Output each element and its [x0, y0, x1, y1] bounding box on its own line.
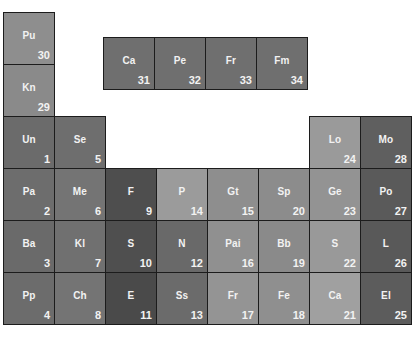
- tile-fe-18: Fe18: [258, 272, 310, 325]
- tile-symbol: E: [106, 290, 156, 301]
- tile-fr-17: Fr17: [207, 272, 259, 325]
- tile-number: 17: [242, 309, 254, 321]
- tile-symbol: S: [106, 238, 156, 249]
- tile-se-5: Se5: [54, 116, 106, 169]
- tile-symbol: Pe: [155, 55, 205, 66]
- tile-number: 2: [44, 205, 50, 217]
- tile-s-22: S22: [309, 220, 361, 273]
- tile-symbol: Ca: [104, 55, 154, 66]
- tile-pp-4: Pp4: [3, 272, 55, 325]
- tile-symbol: Sp: [259, 186, 309, 197]
- tile-sp-20: Sp20: [258, 168, 310, 221]
- tile-number: 28: [395, 153, 407, 165]
- tile-ge-23: Ge23: [309, 168, 361, 221]
- tile-symbol: N: [157, 238, 207, 249]
- tile-ca-31: Ca31: [103, 37, 155, 90]
- tile-number: 16: [242, 257, 254, 269]
- tile-pe-32: Pe32: [154, 37, 206, 90]
- tile-number: 31: [138, 74, 150, 86]
- tile-number: 12: [191, 257, 203, 269]
- tile-symbol: L: [361, 238, 411, 249]
- tile-number: 29: [38, 101, 50, 113]
- tile-symbol: El: [361, 290, 411, 301]
- tile-f-9: F9: [105, 168, 157, 221]
- tile-bb-19: Bb19: [258, 220, 310, 273]
- tile-number: 20: [293, 205, 305, 217]
- tile-number: 22: [344, 257, 356, 269]
- tile-number: 33: [240, 74, 252, 86]
- tile-s-10: S10: [105, 220, 157, 273]
- tile-number: 23: [344, 205, 356, 217]
- tile-number: 15: [242, 205, 254, 217]
- tile-number: 25: [395, 309, 407, 321]
- tile-number: 9: [146, 205, 152, 217]
- tile-number: 32: [189, 74, 201, 86]
- tile-symbol: Bb: [259, 238, 309, 249]
- tile-number: 27: [395, 205, 407, 217]
- tile-symbol: Pai: [208, 238, 258, 249]
- tile-gt-15: Gt15: [207, 168, 259, 221]
- tile-number: 10: [140, 257, 152, 269]
- tile-symbol: Fr: [208, 290, 258, 301]
- tile-e-11: E11: [105, 272, 157, 325]
- tile-ca-21: Ca21: [309, 272, 361, 325]
- tile-ba-3: Ba3: [3, 220, 55, 273]
- tile-number: 3: [44, 257, 50, 269]
- tile-number: 14: [191, 205, 203, 217]
- tile-symbol: Fr: [206, 55, 256, 66]
- tile-me-6: Me6: [54, 168, 106, 221]
- tile-number: 24: [344, 153, 356, 165]
- tile-po-27: Po27: [360, 168, 412, 221]
- tile-number: 8: [95, 309, 101, 321]
- tile-symbol: P: [157, 186, 207, 197]
- tile-number: 4: [44, 309, 50, 321]
- tile-pai-16: Pai16: [207, 220, 259, 273]
- tile-number: 34: [291, 74, 303, 86]
- tile-symbol: Pu: [4, 30, 54, 41]
- tile-fm-34: Fm34: [256, 37, 308, 90]
- tile-number: 19: [293, 257, 305, 269]
- tile-symbol: Se: [55, 134, 105, 145]
- tile-symbol: Fm: [257, 55, 307, 66]
- tile-symbol: Pp: [4, 290, 54, 301]
- tile-fr-33: Fr33: [205, 37, 257, 90]
- tile-ss-13: Ss13: [156, 272, 208, 325]
- tile-pa-2: Pa2: [3, 168, 55, 221]
- tile-symbol: Un: [4, 134, 54, 145]
- tile-number: 6: [95, 205, 101, 217]
- tile-number: 11: [140, 309, 152, 321]
- tile-number: 21: [344, 309, 356, 321]
- tile-symbol: Kn: [4, 82, 54, 93]
- tile-lo-24: Lo24: [309, 116, 361, 169]
- tile-number: 7: [95, 257, 101, 269]
- tile-number: 13: [191, 309, 203, 321]
- tile-symbol: Ca: [310, 290, 360, 301]
- tile-symbol: Gt: [208, 186, 258, 197]
- tile-kl-7: Kl7: [54, 220, 106, 273]
- tile-un-1: Un1: [3, 116, 55, 169]
- tile-symbol: Ge: [310, 186, 360, 197]
- tile-symbol: F: [106, 186, 156, 197]
- tile-symbol: Fe: [259, 290, 309, 301]
- tile-symbol: Ba: [4, 238, 54, 249]
- tile-symbol: Lo: [310, 134, 360, 145]
- tile-pu-30: Pu30: [3, 12, 55, 65]
- tile-symbol: Mo: [361, 134, 411, 145]
- tile-p-14: P14: [156, 168, 208, 221]
- tile-mo-28: Mo28: [360, 116, 412, 169]
- tile-symbol: Ss: [157, 290, 207, 301]
- tile-kn-29: Kn29: [3, 64, 55, 117]
- tile-symbol: Ch: [55, 290, 105, 301]
- tile-symbol: Pa: [4, 186, 54, 197]
- tile-symbol: Po: [361, 186, 411, 197]
- tile-symbol: Kl: [55, 238, 105, 249]
- tile-symbol: Me: [55, 186, 105, 197]
- tile-n-12: N12: [156, 220, 208, 273]
- tile-el-25: El25: [360, 272, 412, 325]
- tile-number: 1: [44, 153, 50, 165]
- tile-number: 18: [293, 309, 305, 321]
- tile-number: 30: [38, 49, 50, 61]
- tile-ch-8: Ch8: [54, 272, 106, 325]
- tile-number: 26: [395, 257, 407, 269]
- tile-l-26: L26: [360, 220, 412, 273]
